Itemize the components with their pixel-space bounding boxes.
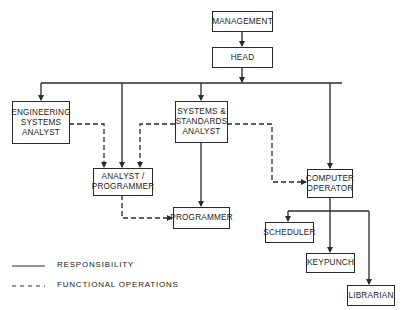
legend-responsibility-label: RESPONSIBILITY <box>57 260 134 269</box>
legend-functional-label: FUNCTIONAL OPERATIONS <box>57 280 179 289</box>
node-systems-standards-analyst: SYSTEMS & STANDARDS ANALYST <box>175 101 228 143</box>
functional-analyst-programmer-programmer <box>122 195 172 218</box>
node-management: MANAGEMENT <box>212 11 273 32</box>
node-engineering-systems-analyst: ENGINEERING SYSTEMS ANALYST <box>12 101 70 144</box>
legend-functional: FUNCTIONAL OPERATIONS <box>45 280 179 289</box>
node-librarian: LIBRARIAN <box>347 285 395 306</box>
node-computer-operator: COMPUTER OPERATOR <box>307 169 353 198</box>
node-programmer: PROGRAMMER <box>173 207 230 229</box>
node-analyst-programmer: ANALYST / PROGRAMMER <box>93 168 153 196</box>
functional-systems-analyst-programmer <box>140 124 175 167</box>
functional-systems-computer-operator <box>227 124 306 182</box>
functional-engineering-analyst-programmer <box>69 124 104 167</box>
node-head: HEAD <box>212 47 273 68</box>
legend-responsibility: RESPONSIBILITY <box>45 260 134 269</box>
node-scheduler: SCHEDULER <box>265 222 314 243</box>
node-keypunch: KEYPUNCH <box>306 253 355 273</box>
